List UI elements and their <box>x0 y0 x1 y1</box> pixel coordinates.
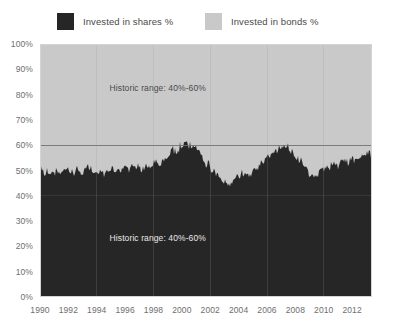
x-tick-label: 2008 <box>286 305 305 315</box>
x-tick-label: 2006 <box>257 305 276 315</box>
x-tick-label: 2012 <box>342 305 361 315</box>
x-tick-label: 1994 <box>87 305 106 315</box>
x-tick-label: 2002 <box>201 305 220 315</box>
x-tick-label: 1996 <box>115 305 134 315</box>
stacked-area-chart: Invested in shares % Invested in bonds %… <box>0 0 396 328</box>
x-axis: 1990199219941996199820002002200420062008… <box>0 0 396 328</box>
x-tick-label: 2004 <box>229 305 248 315</box>
x-tick-label: 1992 <box>59 305 78 315</box>
x-tick-label: 1998 <box>144 305 163 315</box>
x-tick-label: 2010 <box>314 305 333 315</box>
x-tick-label: 2000 <box>172 305 191 315</box>
x-tick-label: 1990 <box>30 305 49 315</box>
